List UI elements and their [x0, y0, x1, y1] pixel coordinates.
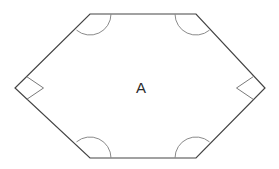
hexagon-diagram: A [0, 0, 279, 169]
figure-root: A [0, 0, 279, 169]
region-label-a: A [136, 79, 146, 96]
